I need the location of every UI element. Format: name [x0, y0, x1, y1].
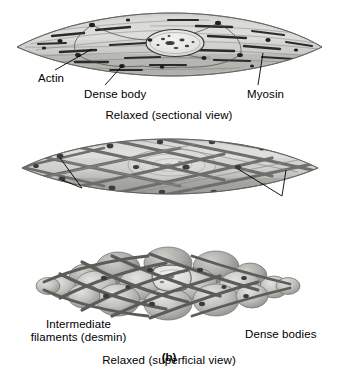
panel-relaxed-sectional: Actin Dense body Myosin Relaxed (section… [0, 0, 338, 128]
illustration-relaxed-sectional [0, 0, 338, 105]
nucleus [146, 30, 204, 57]
label-myosin: Myosin [247, 88, 284, 101]
figure-part-label: (b) [0, 351, 338, 363]
panel-relaxed-superficial: Intermediate filaments (desmin) Dense bo… [0, 128, 338, 246]
label-actin: Actin [38, 72, 64, 85]
illustration-relaxed-superficial [0, 128, 338, 228]
figure-smooth-muscle-cell: Actin Dense body Myosin Relaxed (section… [0, 0, 338, 372]
caption-relaxed-sectional: Relaxed (sectional view) [0, 109, 338, 121]
label-dense-body: Dense body [84, 88, 146, 101]
illustration-contracted-superficial [0, 246, 338, 330]
